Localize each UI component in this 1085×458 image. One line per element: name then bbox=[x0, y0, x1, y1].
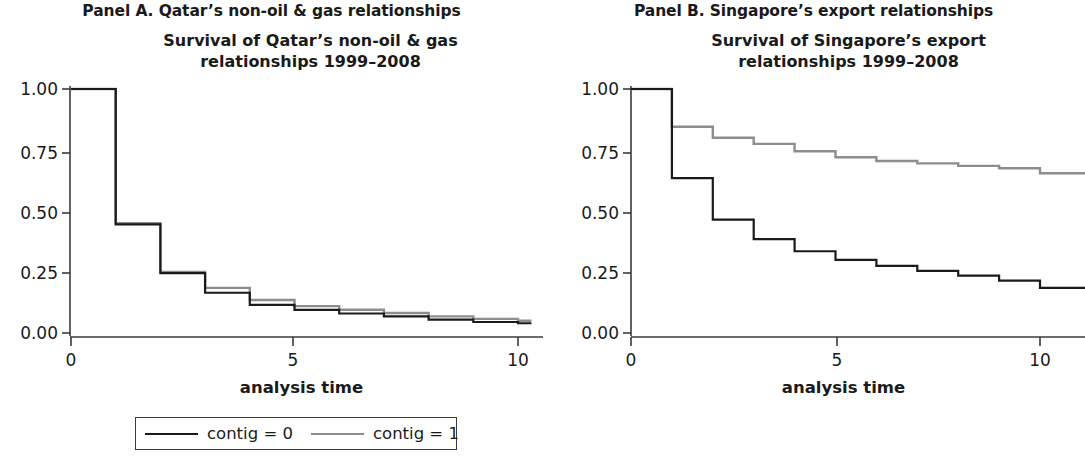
panel-b-ytick-3: 0.75 bbox=[581, 143, 619, 163]
panel-b-svg: 1.00 0.75 0.50 0.25 0.00 0 bbox=[542, 70, 1085, 370]
panel-b-ytick-labels: 1.00 0.75 0.50 0.25 0.00 bbox=[581, 79, 619, 343]
legend-line-black-icon bbox=[145, 433, 198, 435]
panel-b-ytick-1: 0.25 bbox=[581, 263, 619, 283]
panel-a-heading: Panel A. Qatar’s non-oil & gas relations… bbox=[0, 2, 543, 20]
panel-a-legend-entry-0: contig = 0 bbox=[145, 424, 293, 443]
panel-b-x-axis-title: analysis time bbox=[542, 378, 1085, 397]
panel-b-xtick-marks bbox=[631, 337, 1040, 346]
panel-a-xtick-2: 10 bbox=[507, 350, 529, 370]
panel-b-title-line-1: Survival of Singapore’s export bbox=[711, 31, 986, 50]
panel-b-chart-title: Survival of Singapore’s export relations… bbox=[542, 30, 1085, 72]
panel-b-ytick-marks bbox=[623, 89, 631, 333]
panel-a-xtick-marks bbox=[71, 337, 518, 346]
panel-a-title-line-1: Survival of Qatar’s non-oil & gas bbox=[163, 31, 457, 50]
panel-b-ytick-0: 0.00 bbox=[581, 323, 619, 343]
panel-b-ytick-4: 1.00 bbox=[581, 79, 619, 99]
panel-a-xtick-0: 0 bbox=[66, 350, 77, 370]
panel-a-plot: 1.00 0.75 0.50 0.25 0.00 0 bbox=[0, 70, 543, 370]
panel-a-series-contig-0 bbox=[71, 89, 531, 323]
panel-a-svg: 1.00 0.75 0.50 0.25 0.00 0 bbox=[0, 70, 543, 370]
panel-a-ytick-labels: 1.00 0.75 0.50 0.25 0.00 bbox=[20, 79, 58, 343]
panel-a: Panel A. Qatar’s non-oil & gas relations… bbox=[0, 0, 543, 458]
panel-a-legend-label-1: contig = 1 bbox=[373, 424, 459, 443]
panel-b-xtick-2: 10 bbox=[1029, 350, 1051, 370]
panel-a-ytick-marks bbox=[62, 89, 70, 333]
legend-line-gray-icon bbox=[311, 433, 364, 435]
panel-a-xtick-1: 5 bbox=[288, 350, 299, 370]
panel-b-heading: Panel B. Singapore’s export relationship… bbox=[542, 2, 1085, 20]
panel-a-ytick-0: 0.00 bbox=[20, 323, 58, 343]
panel-b-ytick-2: 0.50 bbox=[581, 203, 619, 223]
panel-a-title-line-2: relationships 1999–2008 bbox=[200, 52, 421, 71]
panel-b-xtick-labels: 0 5 10 bbox=[626, 350, 1051, 370]
panel-a-legend: contig = 0 contig = 1 bbox=[135, 417, 457, 450]
panel-a-ytick-2: 0.50 bbox=[20, 203, 58, 223]
panel-a-chart-title: Survival of Qatar’s non-oil & gas relati… bbox=[0, 30, 543, 72]
panel-a-series-contig-1 bbox=[71, 89, 531, 321]
panel-b-xtick-1: 5 bbox=[832, 350, 843, 370]
panel-a-legend-entry-1: contig = 1 bbox=[311, 424, 459, 443]
panel-a-x-axis-title: analysis time bbox=[0, 378, 543, 397]
panel-a-legend-label-0: contig = 0 bbox=[207, 424, 293, 443]
panel-a-ytick-1: 0.25 bbox=[20, 263, 58, 283]
panel-a-xtick-labels: 0 5 10 bbox=[66, 350, 529, 370]
panel-b-xtick-0: 0 bbox=[626, 350, 637, 370]
panel-b-series-contig-1 bbox=[631, 89, 1085, 173]
panel-a-ytick-4: 1.00 bbox=[20, 79, 58, 99]
panel-b-plot: 1.00 0.75 0.50 0.25 0.00 0 bbox=[542, 70, 1085, 370]
panel-a-ytick-3: 0.75 bbox=[20, 143, 58, 163]
panel-b: Panel B. Singapore’s export relationship… bbox=[542, 0, 1085, 458]
panel-b-title-line-2: relationships 1999–2008 bbox=[738, 52, 959, 71]
panel-b-series-contig-0 bbox=[631, 89, 1085, 288]
